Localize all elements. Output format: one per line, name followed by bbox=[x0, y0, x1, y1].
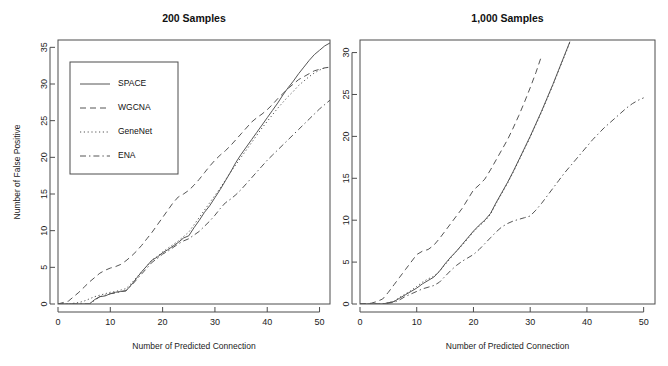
y-axis-tick-label: 20 bbox=[341, 131, 351, 141]
panel-1000-samples: 1,000 Samples05101520253001020304050Numb… bbox=[334, 0, 668, 366]
series-line-wgcna bbox=[360, 56, 542, 304]
series-line-ena bbox=[360, 98, 644, 304]
plot-svg-right: 1,000 Samples05101520253001020304050Numb… bbox=[334, 0, 668, 366]
series-line-ena bbox=[58, 100, 330, 304]
y-axis-tick-label: 5 bbox=[341, 260, 351, 265]
x-axis-tick-label: 20 bbox=[468, 317, 478, 327]
legend-label-genenet: GeneNet bbox=[118, 126, 153, 136]
x-axis-tick-label: 0 bbox=[357, 317, 362, 327]
x-axis-tick-label: 50 bbox=[639, 317, 649, 327]
plot-frame bbox=[360, 40, 655, 304]
x-axis-tick-label: 30 bbox=[525, 317, 535, 327]
y-axis-tick-label: 10 bbox=[39, 226, 49, 236]
series-line-space bbox=[360, 42, 570, 304]
y-axis-tick-label: 20 bbox=[39, 152, 49, 162]
series-line-genenet bbox=[360, 43, 570, 304]
series-line-wgcna bbox=[58, 67, 330, 304]
y-axis-tick-label: 10 bbox=[341, 215, 351, 225]
curves-group bbox=[360, 42, 644, 304]
panel-title: 200 Samples bbox=[162, 12, 226, 24]
y-axis-tick-label: 0 bbox=[39, 301, 49, 306]
curves-group bbox=[58, 43, 330, 304]
y-axis-tick-label: 15 bbox=[39, 189, 49, 199]
y-axis-tick-label: 30 bbox=[39, 79, 49, 89]
panel-200-samples: 200 Samples0510152025303501020304050Numb… bbox=[0, 0, 334, 366]
x-axis-title: Number of Predicted Connection bbox=[446, 341, 570, 351]
y-axis-tick-label: 0 bbox=[341, 301, 351, 306]
legend-label-wgcna: WGCNA bbox=[118, 102, 151, 112]
legend-label-ena: ENA bbox=[118, 150, 136, 160]
series-line-space bbox=[58, 43, 330, 304]
x-axis-tick-label: 50 bbox=[315, 317, 325, 327]
x-axis-tick-label: 20 bbox=[158, 317, 168, 327]
x-axis-tick-label: 40 bbox=[582, 317, 592, 327]
y-axis-tick-label: 25 bbox=[341, 89, 351, 99]
x-axis-tick-label: 30 bbox=[210, 317, 220, 327]
y-axis-tick-label: 35 bbox=[39, 42, 49, 52]
figure-container: 200 Samples0510152025303501020304050Numb… bbox=[0, 0, 668, 366]
x-axis-tick-label: 40 bbox=[262, 317, 272, 327]
y-axis-tick-label: 15 bbox=[341, 173, 351, 183]
x-axis-title: Number of Predicted Connection bbox=[132, 341, 256, 351]
y-axis-tick-label: 25 bbox=[39, 116, 49, 126]
x-axis-tick-label: 10 bbox=[412, 317, 422, 327]
plot-frame bbox=[58, 40, 330, 304]
x-axis-tick-label: 10 bbox=[105, 317, 115, 327]
y-axis-tick-label: 30 bbox=[341, 48, 351, 58]
panel-title: 1,000 Samples bbox=[471, 12, 544, 24]
y-axis-tick-label: 5 bbox=[39, 265, 49, 270]
y-axis-title: Number of False Positive bbox=[12, 124, 22, 219]
plot-svg-left: 200 Samples0510152025303501020304050Numb… bbox=[0, 0, 334, 366]
x-axis-tick-label: 0 bbox=[55, 317, 60, 327]
legend-label-space: SPACE bbox=[118, 78, 147, 88]
